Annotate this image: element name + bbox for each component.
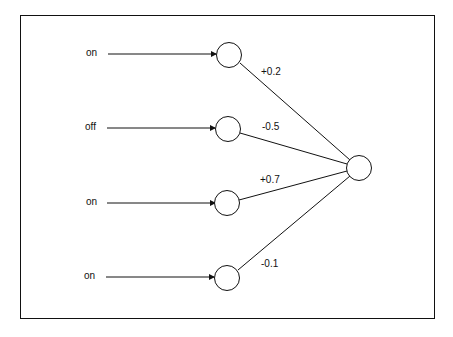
weight-label-2: -0.5 xyxy=(262,122,279,132)
weight-label-4: -0.1 xyxy=(261,259,278,269)
weight-line-4 xyxy=(238,176,350,270)
input-label-2: off xyxy=(85,122,96,132)
network-diagram xyxy=(0,0,453,337)
weight-line-1 xyxy=(240,63,350,160)
input-label-1: on xyxy=(86,48,97,58)
weight-line-3 xyxy=(239,171,347,200)
input-label-3: on xyxy=(86,197,97,207)
input-node-3 xyxy=(215,191,240,216)
output-node xyxy=(347,156,372,181)
input-label-4: on xyxy=(84,271,95,281)
weight-line-2 xyxy=(240,133,347,164)
input-node-2 xyxy=(216,117,241,142)
weight-label-1: +0.2 xyxy=(261,67,281,77)
input-node-4 xyxy=(215,266,240,291)
input-node-1 xyxy=(217,43,242,68)
weight-label-3: +0.7 xyxy=(260,175,280,185)
